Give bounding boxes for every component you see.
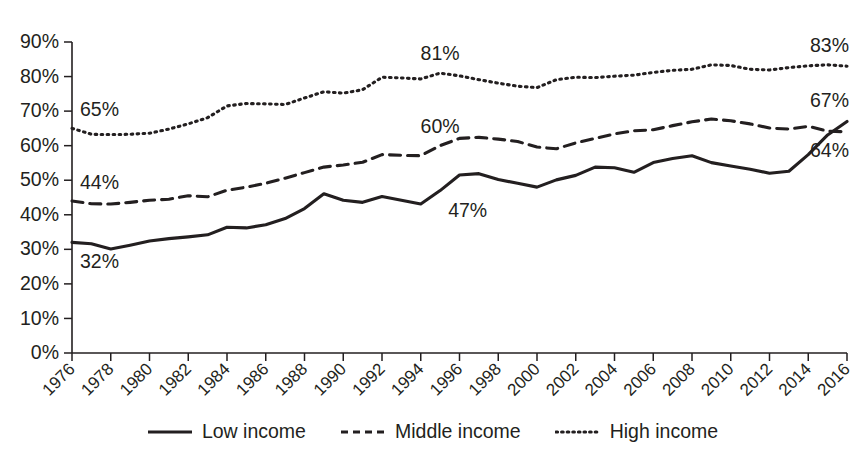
y-axis-tick-label: 50% xyxy=(20,168,59,190)
y-axis-tick-label: 90% xyxy=(20,30,59,52)
legend-line-swatch-dotted xyxy=(555,426,601,438)
x-axis-tick-label: 1988 xyxy=(271,359,311,399)
x-axis-tick-label: 1996 xyxy=(426,359,466,399)
y-axis-tick-label: 10% xyxy=(20,307,59,329)
series-line-low-income xyxy=(72,121,847,249)
y-axis-tick-label: 70% xyxy=(20,99,59,121)
x-axis-tick-label: 2004 xyxy=(581,359,621,399)
x-axis-tick-label: 2006 xyxy=(620,359,660,399)
x-axis-tick-label: 1984 xyxy=(194,359,234,399)
data-label: 60% xyxy=(421,115,460,137)
y-axis: 0%10%20%30%40%50%60%70%80%90% xyxy=(20,30,72,363)
data-label: 83% xyxy=(810,34,849,56)
x-axis-tick-label: 1986 xyxy=(232,359,272,399)
data-label: 67% xyxy=(810,89,849,111)
data-label: 47% xyxy=(448,199,487,221)
legend-label: Low income xyxy=(202,420,306,443)
chart-legend: Low incomeMiddle incomeHigh income xyxy=(0,420,865,443)
x-axis-tick-label: 1982 xyxy=(155,359,195,399)
x-axis-tick-label: 1992 xyxy=(349,359,389,399)
y-axis-ticks xyxy=(64,42,72,353)
data-label: 65% xyxy=(80,98,119,120)
chart-plot-area: 0%10%20%30%40%50%60%70%80%90% 1976197819… xyxy=(0,0,865,470)
series-lines xyxy=(72,65,847,249)
x-axis-tick-label: 2016 xyxy=(814,359,854,399)
legend-label: Middle income xyxy=(395,420,521,443)
x-axis-tick-label: 2000 xyxy=(504,359,544,399)
x-axis-tick-label: 2008 xyxy=(659,359,699,399)
y-axis-tick-label: 30% xyxy=(20,237,59,259)
y-axis-tick-label: 40% xyxy=(20,203,59,225)
legend-item[interactable]: Middle income xyxy=(340,420,521,443)
x-axis-tick-label: 2002 xyxy=(542,359,582,399)
x-axis-tick-label: 1990 xyxy=(310,359,350,399)
x-axis-tick-label: 1980 xyxy=(116,359,156,399)
y-axis-tick-label: 80% xyxy=(20,65,59,87)
x-axis-ticks xyxy=(72,353,847,361)
y-axis-tick-labels: 0%10%20%30%40%50%60%70%80%90% xyxy=(20,30,59,363)
x-axis-tick-label: 1976 xyxy=(39,359,79,399)
y-axis-tick-label: 20% xyxy=(20,272,59,294)
x-axis: 1976197819801982198419861988199019921994… xyxy=(39,353,854,400)
data-label: 64% xyxy=(810,139,849,161)
x-axis-tick-label: 1978 xyxy=(77,359,117,399)
y-axis-tick-label: 0% xyxy=(31,341,59,363)
x-axis-tick-label: 1998 xyxy=(465,359,505,399)
legend-line-swatch-dashed xyxy=(340,426,386,438)
x-axis-tick-label: 1994 xyxy=(387,359,427,399)
legend-line-swatch-solid xyxy=(147,426,193,438)
x-axis-tick-label: 2010 xyxy=(697,359,737,399)
data-label: 44% xyxy=(80,171,119,193)
x-axis-tick-labels: 1976197819801982198419861988199019921994… xyxy=(39,359,854,399)
y-axis-tick-label: 60% xyxy=(20,134,59,156)
legend-item[interactable]: High income xyxy=(555,420,718,443)
x-axis-tick-label: 2014 xyxy=(775,359,815,399)
x-axis-tick-label: 2012 xyxy=(736,359,776,399)
legend-label: High income xyxy=(610,420,718,443)
data-label: 32% xyxy=(80,250,119,272)
legend-item[interactable]: Low income xyxy=(147,420,306,443)
data-label: 81% xyxy=(421,42,460,64)
line-chart: 0%10%20%30%40%50%60%70%80%90% 1976197819… xyxy=(0,0,865,470)
